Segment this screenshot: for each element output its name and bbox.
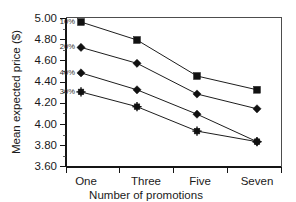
y-tick-label-5: 4.00 (35, 118, 57, 130)
series-40-percent-marker-five (193, 110, 201, 118)
x-tick-label-three: Three (131, 175, 161, 187)
series-10-percent-label: 10% (60, 17, 75, 26)
series-20-percent: 20% (60, 42, 261, 113)
x-axis-title: Number of promotions (89, 189, 203, 201)
series-10-percent-marker-one (78, 19, 85, 26)
plot-frame-rect (66, 18, 281, 168)
series-30-percent: 30% (60, 87, 262, 146)
plot-frame (66, 18, 281, 168)
y-tick-label-1: 4.80 (35, 33, 57, 45)
y-tick-label-6: 3.80 (35, 139, 57, 151)
series-10-percent-marker-five (194, 73, 201, 80)
series-30-percent-marker-one (76, 87, 85, 96)
series-20-percent-line (81, 47, 257, 108)
series-20-percent-marker-five (193, 90, 201, 98)
series-40-percent-line (81, 73, 257, 142)
series-30-percent-label: 30% (60, 87, 75, 96)
series-30-percent-marker-five (192, 127, 201, 136)
series-40-percent: 40% (60, 68, 261, 146)
series-10-percent: 10% (60, 17, 261, 93)
x-tick-label-five: Five (189, 175, 211, 187)
y-tick-label-7: 3.60 (35, 160, 57, 172)
y-tick-label-2: 4.60 (35, 54, 57, 66)
x-axis-ticks: One Three Five Seven (66, 167, 281, 187)
series-10-percent-marker-seven (254, 86, 261, 93)
series-40-percent-label: 40% (60, 68, 75, 77)
y-tick-label-0: 5.00 (35, 12, 57, 24)
series-30-percent-line (81, 92, 257, 142)
x-tick-label-seven: Seven (241, 175, 274, 187)
series-10-percent-marker-three (134, 37, 141, 44)
series-20-percent-marker-three (133, 59, 141, 67)
line-chart: 5.00 4.80 4.60 4.40 4.20 4.00 3.80 3.60 … (0, 0, 296, 202)
series-20-percent-marker-one (77, 43, 85, 51)
series-30-percent-marker-seven (252, 137, 261, 146)
series-20-percent-marker-seven (253, 105, 261, 113)
series-20-percent-label: 20% (60, 42, 75, 51)
series-40-percent-marker-one (77, 69, 85, 77)
y-axis-title: Mean expected price ($) (10, 30, 22, 154)
y-tick-label-4: 4.20 (35, 96, 57, 108)
x-tick-label-one: One (75, 175, 97, 187)
chart-container: 5.00 4.80 4.60 4.40 4.20 4.00 3.80 3.60 … (0, 0, 296, 202)
y-tick-label-3: 4.40 (35, 75, 57, 87)
series-40-percent-marker-three (133, 86, 141, 94)
series-30-percent-marker-three (132, 102, 141, 111)
